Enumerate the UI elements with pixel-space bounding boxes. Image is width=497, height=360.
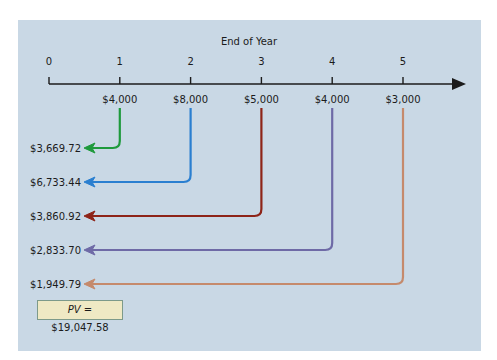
present-value-label: $1,949.79 xyxy=(30,279,81,290)
cash-flow-amount: $8,000 xyxy=(173,94,208,105)
present-value-label: $3,669.72 xyxy=(30,143,81,154)
axis-title: End of Year xyxy=(221,36,278,47)
period-label: 4 xyxy=(329,56,335,67)
period-label: 2 xyxy=(187,56,193,67)
present-value-total: PV = $19,047.58 xyxy=(37,300,123,320)
cash-flow-amount: $4,000 xyxy=(102,94,137,105)
discount-arrow xyxy=(92,108,403,284)
cash-flow-amount: $3,000 xyxy=(386,94,421,105)
cash-flow-amount: $4,000 xyxy=(315,94,350,105)
period-label: 3 xyxy=(258,56,264,67)
discount-arrow xyxy=(92,108,332,250)
discount-arrow xyxy=(92,108,261,216)
cash-flow-amount: $5,000 xyxy=(244,94,279,105)
pv-label: PV xyxy=(68,304,81,315)
period-label: 5 xyxy=(400,56,406,67)
axis-arrow-icon xyxy=(452,78,466,90)
discount-arrow xyxy=(92,108,191,182)
present-value-label: $3,860.92 xyxy=(30,211,81,222)
period-label: 0 xyxy=(46,56,52,67)
period-label: 1 xyxy=(117,56,123,67)
present-value-label: $6,733.44 xyxy=(30,177,81,188)
present-value-label: $2,833.70 xyxy=(30,245,81,256)
